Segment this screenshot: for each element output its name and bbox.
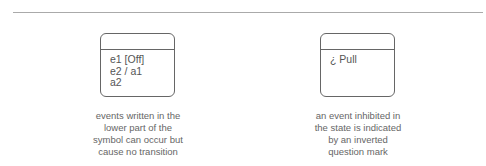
event-line: e1 [Off]	[110, 54, 144, 66]
caption-line: an event inhibited in	[288, 110, 428, 122]
caption-line: cause no transition	[68, 146, 208, 158]
caption-line: question mark	[288, 146, 428, 158]
caption-line: the state is indicated	[288, 122, 428, 134]
state-internal-events: e1 [Off] e2 / a1 a2	[110, 54, 144, 89]
caption-line: events written in the	[68, 110, 208, 122]
state-inhibited-events: ¿ Pull	[330, 54, 357, 66]
caption-line: by an inverted	[288, 134, 428, 146]
state-compartment-divider	[101, 49, 174, 50]
caption-line: symbol can occur but	[68, 134, 208, 146]
state-compartment-divider	[321, 49, 394, 50]
event-line: ¿ Pull	[330, 54, 357, 66]
caption-events: events written in the lower part of the …	[68, 110, 208, 158]
top-divider-line	[13, 12, 483, 13]
caption-line: lower part of the	[68, 122, 208, 134]
state-symbol-inhibited: ¿ Pull	[320, 33, 395, 97]
state-symbol-events: e1 [Off] e2 / a1 a2	[100, 33, 175, 97]
caption-inhibited: an event inhibited in the state is indic…	[288, 110, 428, 158]
event-line: a2	[110, 77, 144, 89]
